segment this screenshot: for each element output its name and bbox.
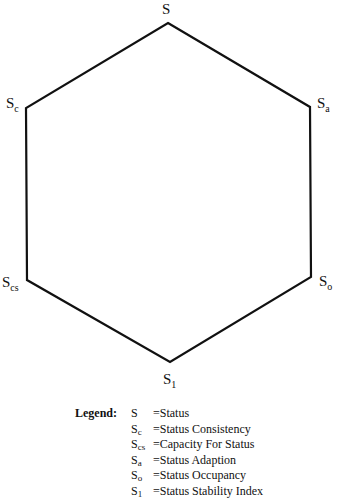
- vertex-label-s1: S1: [163, 372, 176, 390]
- legend-item-status-occupancy: So=Status Occupancy: [131, 469, 263, 485]
- legend-title: Legend:: [75, 407, 117, 420]
- legend-items: S=Status Sc=Status Consistency Scs=Capac…: [131, 407, 263, 500]
- vertex-label-sa: Sa: [317, 96, 330, 114]
- legend-item-status-adaption: Sa=Status Adaption: [131, 454, 263, 470]
- vertex-label-sc: Sc: [6, 96, 19, 114]
- legend-item-status-stability-index: S1=Status Stability Index: [131, 485, 263, 500]
- vertex-label-s: S: [162, 2, 170, 20]
- legend-item-status-consistency: Sc=Status Consistency: [131, 423, 263, 439]
- legend-item-status: S=Status: [131, 407, 263, 423]
- hexagon-outline: [26, 23, 311, 362]
- vertex-label-scs: Scs: [2, 275, 19, 293]
- legend-item-capacity-for-status: Scs=Capacity For Status: [131, 438, 263, 454]
- vertex-label-so: So: [319, 274, 332, 292]
